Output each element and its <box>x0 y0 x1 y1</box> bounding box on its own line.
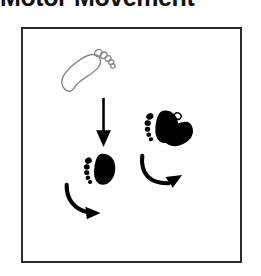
screenshot-root: Motor Movement <box>0 0 261 276</box>
arrow-curved-lower-left-icon <box>67 185 101 219</box>
motor-movement-panel <box>21 27 242 263</box>
page-title: Motor Movement <box>0 0 261 11</box>
motor-movement-figure <box>23 29 240 261</box>
footprint-outline-top-icon <box>57 46 118 93</box>
arrow-curved-upper-right-icon <box>142 156 182 188</box>
footprint-solid-lower-left-icon <box>82 152 117 186</box>
arrow-down-icon <box>96 98 111 147</box>
